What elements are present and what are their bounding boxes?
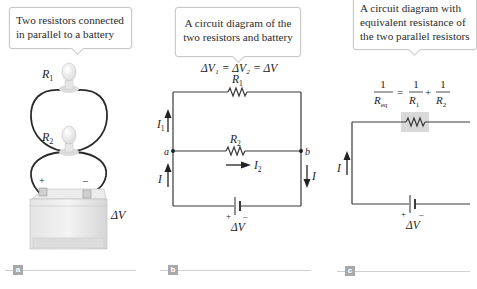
label-i2: I2	[253, 159, 262, 174]
current-i-arrow-icon	[344, 151, 351, 175]
equation-voltage-equal: ΔV₁ = ΔV₂ = ΔV	[200, 62, 279, 74]
label-node-b: b	[305, 146, 310, 157]
label-r2: R2	[229, 133, 241, 148]
label-i-left: I	[157, 173, 163, 185]
node-b-dot	[299, 149, 303, 153]
panel-c-circuit	[352, 118, 470, 213]
panel-b-circuit	[173, 88, 301, 215]
current-i2-arrow-icon	[226, 162, 251, 169]
battery-plus-label: +	[401, 209, 406, 219]
battery-plus-label: +	[226, 211, 231, 221]
label-i1: I1	[156, 118, 165, 133]
lightbulb-r2-icon	[59, 126, 79, 156]
panel-c-rule	[337, 271, 470, 272]
panel-c-tag: c	[345, 266, 355, 276]
label-i: I	[336, 162, 342, 174]
battery-minus-label: –	[242, 211, 248, 221]
label-node-a: a	[164, 146, 169, 157]
label-r2: R2	[41, 130, 53, 146]
svg-text:1: 1	[413, 78, 419, 90]
label-delta-v: ΔV	[110, 208, 127, 222]
current-i-left-arrow-icon	[165, 163, 172, 187]
current-i-right-arrow-icon	[304, 165, 311, 188]
svg-text:Req: Req	[373, 94, 388, 109]
svg-text:1: 1	[380, 78, 386, 90]
battery-plus-label: +	[39, 175, 45, 186]
svg-text:=: =	[397, 86, 403, 98]
panel-a-tag: a	[13, 265, 23, 275]
battery-minus-label: –	[82, 175, 89, 186]
label-delta-v: ΔV	[405, 219, 422, 231]
svg-text:R2: R2	[435, 94, 447, 109]
equation-equivalent-resistance: 1 Req = 1 R1 + 1 R2	[373, 78, 450, 109]
panel-a-illustration: R1 R2 + – ΔV	[30, 63, 127, 249]
svg-text:R1: R1	[408, 94, 420, 109]
label-r1: R1	[41, 67, 53, 83]
label-delta-v: ΔV	[230, 221, 247, 233]
panel-b-rule	[160, 270, 311, 271]
svg-text:+: +	[425, 86, 431, 98]
panel-a-rule	[5, 270, 136, 271]
label-i-right: I	[311, 170, 317, 182]
panel-b-tag: b	[168, 265, 178, 275]
node-a-dot	[171, 149, 175, 153]
lightbulb-r1-icon	[59, 63, 79, 93]
car-battery-icon	[30, 188, 107, 249]
battery-minus-label: –	[418, 209, 424, 219]
svg-text:1: 1	[440, 78, 446, 90]
current-i1-arrow-icon	[165, 109, 172, 132]
label-r1: R1	[231, 73, 243, 88]
